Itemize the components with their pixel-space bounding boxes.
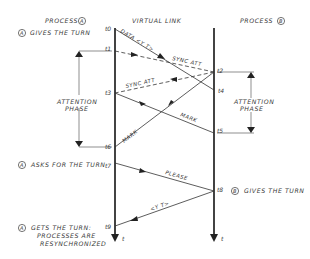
a-asks-turn-label: ASKS FOR THE TURN <box>30 161 106 168</box>
svg-text:A: A <box>19 225 24 231</box>
process-a-tag: A <box>79 18 84 24</box>
svg-text:t: t <box>122 235 125 242</box>
t8-label: t8 <box>217 186 223 193</box>
data-message-label: DATA <Y T> <box>119 28 155 53</box>
right-phase-up-arrow-icon <box>247 72 255 78</box>
t9-label: t9 <box>105 223 111 230</box>
virtual-link-header: VIRTUAL LINK <box>132 17 182 24</box>
please-arrowhead-icon <box>139 168 146 173</box>
svg-text:PHASE: PHASE <box>65 105 88 112</box>
process-b-header: PROCESS <box>240 17 273 24</box>
timeline-b-arrow-icon <box>210 234 218 242</box>
left-phase-label: ATTENTION <box>56 98 97 105</box>
svg-text:A: A <box>19 30 24 36</box>
right-phase-down-arrow-icon <box>247 127 255 133</box>
sync-att-ab-label: SYNC ATT <box>172 55 203 67</box>
mark-ab-arrow <box>115 93 214 133</box>
t3-label: t3 <box>105 89 111 96</box>
t2-label: t2 <box>217 67 223 74</box>
process-b-tag: B <box>279 18 283 24</box>
please-label: PLEASE <box>165 169 189 181</box>
sync-att-ba-arrowhead-icon <box>170 77 177 82</box>
mark-ab-label: MARK <box>180 111 199 123</box>
svg-text:t: t <box>221 235 224 242</box>
please-arrow <box>115 163 214 191</box>
sync-att-ba-label: SYNC ATT <box>125 77 156 89</box>
process-a-header: PROCESS <box>45 17 78 24</box>
t4-label: t4 <box>218 87 224 94</box>
a-gives-turn-label: GIVES THE TURN <box>30 29 91 36</box>
t0-label: t0 <box>105 25 111 32</box>
svg-text:B: B <box>233 188 237 194</box>
yt-arrowhead-icon <box>130 216 138 221</box>
t6-label: t6 <box>105 143 111 150</box>
a-gets-turn-label: GETS THE TURN: <box>31 224 91 231</box>
mark-ba-label: MARK <box>121 128 139 143</box>
yt-arrow <box>115 191 214 226</box>
svg-text:PROCESSES ARE: PROCESSES ARE <box>37 232 96 239</box>
sync-att-ab-arrowhead-icon <box>131 52 138 57</box>
left-phase-up-arrow-icon <box>75 51 83 57</box>
timeline-a-arrow-icon <box>111 234 119 242</box>
svg-text:PHASE: PHASE <box>240 105 263 112</box>
left-phase-down-arrow-icon <box>75 141 83 147</box>
t7-label: t7 <box>105 162 111 169</box>
virtual-link-sequence-diagram: PROCESS A VIRTUAL LINK PROCESS B A GIVES… <box>0 0 310 259</box>
right-phase-label: ATTENTION <box>233 98 274 105</box>
svg-text:A: A <box>19 162 24 168</box>
svg-text:RESYNCHRONIZED: RESYNCHRONIZED <box>40 240 106 247</box>
b-gives-turn-label: GIVES THE TURN <box>244 187 305 194</box>
